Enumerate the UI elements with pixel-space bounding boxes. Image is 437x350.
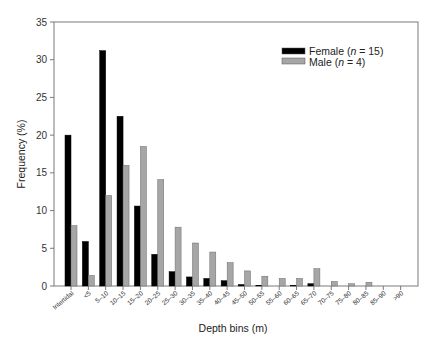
y-tick-label: 35 bbox=[36, 17, 48, 28]
bar-male bbox=[262, 276, 268, 286]
bar-female bbox=[134, 206, 140, 286]
y-tick-label: 5 bbox=[41, 243, 47, 254]
bar-male bbox=[227, 263, 233, 286]
bar-female bbox=[100, 51, 106, 286]
bar-female bbox=[169, 272, 175, 286]
y-axis-title: Frequency (%) bbox=[15, 120, 27, 189]
x-axis-title: Depth bins (m) bbox=[199, 322, 268, 334]
bar-male bbox=[314, 269, 320, 286]
bar-group bbox=[349, 284, 355, 286]
bar-female bbox=[221, 281, 227, 286]
y-tick-label: 25 bbox=[36, 92, 48, 103]
y-tick-label: 30 bbox=[36, 54, 48, 65]
bar-male bbox=[331, 281, 337, 286]
bar-male bbox=[366, 282, 372, 286]
bar-group bbox=[366, 282, 372, 286]
bar-male bbox=[140, 146, 146, 286]
bar-female bbox=[65, 135, 71, 286]
bar-female bbox=[308, 284, 314, 286]
bar-group bbox=[279, 278, 285, 286]
bar-female bbox=[291, 285, 297, 286]
bar-male bbox=[71, 226, 77, 286]
y-tick-label: 10 bbox=[36, 205, 48, 216]
bar-male bbox=[297, 278, 303, 286]
bar-male bbox=[245, 271, 251, 286]
bar-group bbox=[331, 281, 337, 286]
bar-male bbox=[349, 284, 355, 286]
legend-label-male: Male (n = 4) bbox=[309, 56, 365, 68]
y-tick-label: 20 bbox=[36, 130, 48, 141]
bar-male bbox=[106, 195, 112, 286]
bar-male bbox=[88, 275, 94, 286]
bar-male bbox=[210, 252, 216, 286]
bar-female bbox=[117, 116, 123, 286]
legend-swatch-female bbox=[282, 48, 305, 54]
bar-male bbox=[175, 227, 181, 286]
bar-female bbox=[186, 277, 192, 286]
bar-male bbox=[279, 278, 285, 286]
bar-male bbox=[192, 243, 198, 286]
depth-frequency-bar-chart: 05101520253035 Intertidal<55–1010–1515–2… bbox=[0, 0, 437, 350]
bar-female bbox=[82, 241, 88, 286]
legend-swatch-male bbox=[282, 58, 305, 64]
y-tick-label: 15 bbox=[36, 167, 48, 178]
y-tick-label: 0 bbox=[41, 281, 47, 292]
bar-female bbox=[204, 278, 210, 286]
bar-male bbox=[158, 180, 164, 286]
bar-female bbox=[239, 284, 245, 286]
bar-male bbox=[123, 165, 129, 286]
bar-female bbox=[152, 254, 158, 286]
bar-female bbox=[256, 285, 262, 286]
